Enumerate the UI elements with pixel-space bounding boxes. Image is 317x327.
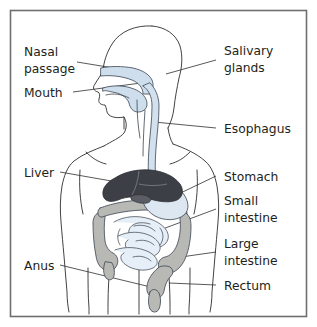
label-small-intestine-line2: intestine: [224, 211, 278, 225]
rectum: [149, 289, 161, 312]
label-small-intestine-line1: Small: [224, 194, 258, 208]
label-stomach: Stomach: [224, 170, 278, 184]
label-nasal-passage-line2: passage: [24, 62, 75, 76]
label-large-intestine-line2: intestine: [224, 254, 278, 268]
label-salivary-glands-line2: glands: [224, 61, 265, 75]
digestive-system-figure: Nasal passage Mouth Salivary glands Esop…: [0, 0, 317, 327]
label-anus: Anus: [24, 259, 54, 273]
label-mouth: Mouth: [24, 86, 63, 100]
label-esophagus: Esophagus: [224, 122, 291, 136]
cecum: [104, 262, 115, 280]
label-salivary-glands-line1: Salivary: [224, 44, 273, 58]
label-rectum: Rectum: [224, 279, 271, 293]
label-nasal-passage-line1: Nasal: [24, 45, 58, 59]
label-large-intestine-line1: Large: [224, 237, 259, 251]
label-liver: Liver: [24, 166, 55, 180]
diagram-canvas: Nasal passage Mouth Salivary glands Esop…: [0, 0, 317, 327]
